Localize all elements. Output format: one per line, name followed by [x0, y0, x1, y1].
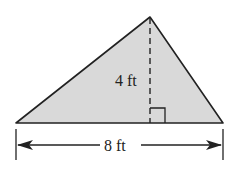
height-label: 4 ft — [115, 72, 137, 89]
base-label: 8 ft — [104, 137, 126, 154]
triangle-diagram: 4 ft 8 ft — [0, 0, 240, 170]
triangle-shape — [16, 17, 223, 123]
